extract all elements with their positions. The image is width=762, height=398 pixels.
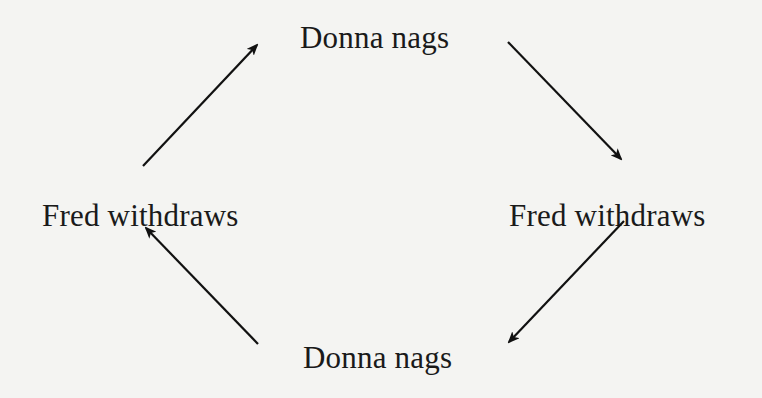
arrow-top-to-right-icon <box>508 42 621 159</box>
cycle-arrows <box>0 0 762 398</box>
arrow-left-to-top-icon <box>143 45 257 166</box>
arrow-bottom-to-left-icon <box>146 228 258 344</box>
arrow-right-to-bottom-icon <box>509 221 624 342</box>
